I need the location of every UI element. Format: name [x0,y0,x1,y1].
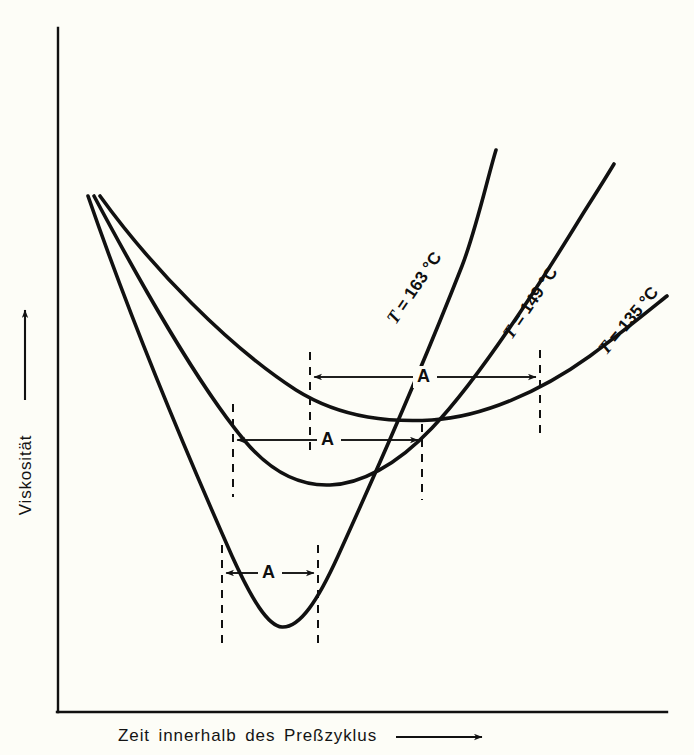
curve-149c [94,164,614,485]
y-axis-label-group: Viskosität [0,290,56,590]
span-a-label-135: A [417,366,430,387]
x-axis-label: Zeit innerhalb des Preßzyklus [118,726,377,746]
y-axis-label: Viskosität [16,340,36,610]
plot-canvas [0,0,694,755]
curve-135c [100,196,667,421]
span-a-label-163: A [262,562,275,583]
viscosity-figure: Viskosität Zeit innerhalb des Preßzyklus… [0,0,694,755]
span-a-label-149: A [321,429,334,450]
x-axis-label-group: Zeit innerhalb des Preßzyklus [118,726,377,746]
curve-group [88,150,667,627]
axis-lines [57,28,667,712]
span-annotation-163 [222,545,318,648]
